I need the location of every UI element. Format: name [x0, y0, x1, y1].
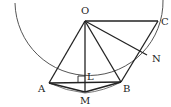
- label-N: N: [152, 53, 161, 64]
- label-L: L: [87, 71, 94, 82]
- segment-OA: [49, 21, 85, 83]
- segment-AM: [49, 83, 85, 92]
- geometry-diagram: O C N A B L M: [0, 0, 171, 107]
- segment-MB: [85, 82, 121, 92]
- diagram-svg: O C N A B L M: [0, 0, 171, 107]
- label-A: A: [37, 83, 46, 94]
- label-C: C: [161, 16, 169, 27]
- segment-AB: [49, 82, 121, 83]
- label-O: O: [81, 5, 89, 16]
- label-B: B: [123, 83, 130, 94]
- label-M: M: [80, 95, 90, 106]
- segment-BC: [121, 21, 158, 82]
